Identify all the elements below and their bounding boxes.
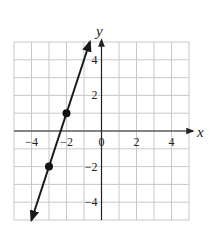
data-point	[45, 163, 53, 171]
y-tick-label: 4	[92, 53, 98, 67]
x-tick-label: 2	[134, 135, 140, 149]
x-tick-label: 4	[169, 135, 175, 149]
x-tick-label: 0	[99, 135, 105, 149]
x-axis-label: x	[196, 124, 204, 140]
y-tick-label: −2	[85, 160, 98, 174]
data-point	[63, 109, 71, 117]
y-axis-label: y	[94, 23, 103, 39]
x-tick-label: −4	[25, 135, 38, 149]
x-tick-label: −2	[60, 135, 73, 149]
y-tick-label: 2	[92, 88, 98, 102]
y-tick-label: −4	[85, 195, 98, 209]
coordinate-plane: −4−202442−2−4 x y	[0, 0, 211, 231]
